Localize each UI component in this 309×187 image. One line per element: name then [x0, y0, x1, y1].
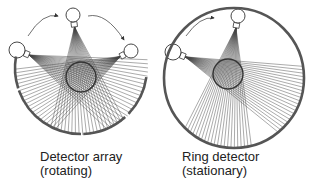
xray-source-circle [9, 42, 25, 58]
rotation-arrow-icon [88, 16, 124, 41]
rotation-arrow-icon [28, 15, 58, 36]
caption-title: Detector array [40, 150, 122, 164]
ring-detector-caption: Ring detector (stationary) [182, 150, 259, 178]
xray-source-circle [231, 9, 245, 23]
xray-source-circle [124, 44, 138, 58]
xray-tube-neck [71, 22, 78, 28]
caption-subtitle: (stationary) [182, 164, 259, 178]
detector-array-caption: Detector array (rotating) [40, 150, 122, 178]
xray-fan-beam [185, 28, 251, 148]
xray-fan-beam [185, 57, 304, 132]
caption-title: Ring detector [182, 150, 259, 164]
rotation-arrow-icon [186, 18, 214, 36]
xray-source-circle [66, 8, 80, 22]
caption-subtitle: (rotating) [40, 164, 122, 178]
ring-detector-panel [164, 8, 304, 148]
detector-array-panel [9, 8, 148, 135]
detector-arc-right [128, 77, 146, 114]
